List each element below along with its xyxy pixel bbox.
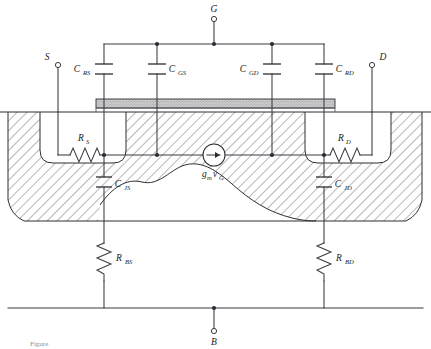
node-gate-bus-gate <box>212 42 216 46</box>
node-cgd-channel <box>270 153 274 157</box>
c-rd-symbol <box>315 64 333 74</box>
svg-text:G: G <box>219 174 224 181</box>
mosfet-schematic-cross-section: G S D B C RS C GS C GD C RD C J <box>0 0 431 349</box>
node-gate-bus-cgs <box>155 42 159 46</box>
node-body-bus <box>212 306 216 310</box>
c-gd-symbol <box>263 64 281 74</box>
svg-text:C: C <box>169 64 176 74</box>
svg-text:C: C <box>240 64 247 74</box>
gate-terminal-pad[interactable] <box>211 16 216 21</box>
r-bd-symbol <box>317 243 331 281</box>
svg-text:C: C <box>115 179 122 189</box>
svg-text:R: R <box>337 133 344 143</box>
svg-text:GS: GS <box>178 69 187 76</box>
c-gd-label: C GD <box>240 64 259 76</box>
svg-text:C: C <box>336 64 343 74</box>
svg-text:C: C <box>74 64 81 74</box>
device-cross-section <box>0 99 431 235</box>
c-gs-label: C GS <box>169 64 187 76</box>
svg-text:R: R <box>115 253 122 263</box>
r-bs-label: R BS <box>115 253 133 265</box>
c-rs-symbol <box>95 64 113 74</box>
drain-terminal-pad[interactable] <box>369 62 374 67</box>
source-terminal-pad[interactable] <box>55 62 60 67</box>
node-gate-bus-cgd <box>270 42 274 46</box>
svg-text:C: C <box>335 179 342 189</box>
figure-root: G S D B C RS C GS C GD C RD C J <box>0 0 431 349</box>
svg-text:RS: RS <box>82 69 91 76</box>
c-rs-label: C RS <box>74 64 91 76</box>
source-terminal-label: S <box>45 52 50 62</box>
svg-text:R: R <box>77 133 84 143</box>
svg-text:D: D <box>345 138 351 145</box>
svg-text:JS: JS <box>124 184 131 191</box>
node-drain-internal <box>322 153 326 157</box>
figure-caption-text: Figure <box>0 340 431 349</box>
node-cgs-channel <box>155 153 159 157</box>
drain-terminal-label: D <box>379 52 387 62</box>
svg-text:BD: BD <box>345 258 354 265</box>
r-bd-label: R BD <box>335 253 354 265</box>
svg-text:JD: JD <box>344 184 352 191</box>
node-source-internal <box>102 153 106 157</box>
r-bs-symbol <box>97 243 111 281</box>
c-gs-symbol <box>148 64 166 74</box>
c-rd-label: C RD <box>336 64 354 76</box>
svg-text:RD: RD <box>344 69 354 76</box>
body-terminal-pad[interactable] <box>211 328 216 333</box>
svg-text:R: R <box>335 253 342 263</box>
svg-text:GD: GD <box>249 69 259 76</box>
gate-terminal-label: G <box>211 4 218 14</box>
gm-current-source <box>203 144 225 166</box>
svg-text:BS: BS <box>125 258 133 265</box>
figure-caption-strip: Figure <box>0 340 431 349</box>
svg-text:m: m <box>207 174 212 181</box>
